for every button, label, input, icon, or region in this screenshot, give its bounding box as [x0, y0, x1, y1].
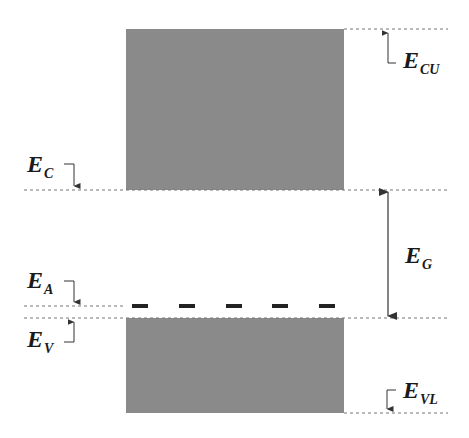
evl-leader-arrow	[387, 390, 396, 409]
ea-leader-arrow	[64, 281, 74, 302]
label-ev: EV	[27, 327, 53, 351]
label-ea: EA	[27, 268, 53, 292]
conduction-band	[126, 29, 344, 190]
label-evl: EVL	[403, 378, 438, 402]
label-ec: EC	[27, 152, 53, 176]
ecu-leader-arrow	[388, 33, 396, 63]
valence-band	[126, 318, 344, 413]
band-diagram	[0, 0, 469, 438]
label-eg: EG	[405, 243, 432, 267]
ec-leader-arrow	[64, 164, 74, 186]
label-ecu: ECU	[403, 48, 439, 72]
ev-leader-arrow	[64, 322, 74, 342]
